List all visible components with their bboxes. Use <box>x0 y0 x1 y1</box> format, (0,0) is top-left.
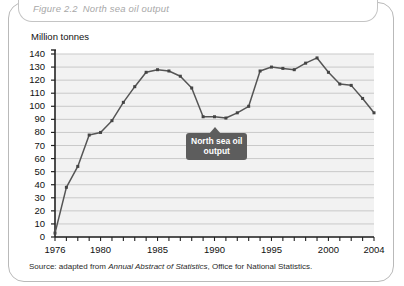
y-tick-label: 20 <box>19 205 45 216</box>
y-tick-label: 70 <box>19 140 45 151</box>
y-tick-label: 60 <box>19 153 45 164</box>
x-tick-label: 2000 <box>310 244 346 255</box>
y-tick-label: 80 <box>19 126 45 137</box>
y-tick-label: 130 <box>19 61 45 72</box>
chart-container: Million tonnes 0102030405060708090100110… <box>0 0 404 286</box>
x-tick-label: 1980 <box>83 244 119 255</box>
y-tick-label: 40 <box>19 179 45 190</box>
callout-line-1: North sea oil <box>191 136 242 146</box>
y-tick-label: 90 <box>19 113 45 124</box>
source-publication: Annual Abstract of Statistics <box>108 262 207 271</box>
x-tick-label: 2004 <box>356 244 392 255</box>
y-tick-label: 110 <box>19 87 45 98</box>
y-tick-label: 140 <box>19 48 45 59</box>
x-tick-label: 1995 <box>253 244 289 255</box>
y-tick-label: 100 <box>19 100 45 111</box>
source-suffix: , Office for National Statistics. <box>207 262 312 271</box>
y-tick-label: 120 <box>19 74 45 85</box>
callout-line-2: output <box>191 146 242 156</box>
y-tick-label: 30 <box>19 192 45 203</box>
x-tick-label: 1976 <box>37 244 73 255</box>
y-tick-label: 50 <box>19 166 45 177</box>
source-note: Source: adapted from Annual Abstract of … <box>29 262 312 271</box>
y-tick-label: 0 <box>19 231 45 242</box>
series-callout: North sea oil output <box>186 133 247 160</box>
x-tick-label: 1990 <box>197 244 233 255</box>
source-prefix: Source: adapted from <box>29 262 108 271</box>
x-tick-label: 1985 <box>140 244 176 255</box>
y-tick-label: 10 <box>19 218 45 229</box>
